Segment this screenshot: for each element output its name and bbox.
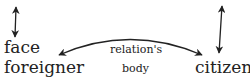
left-vertical-double-arrow xyxy=(15,7,16,37)
label-foreigner: foreigner xyxy=(4,59,84,76)
label-citizen: citizen xyxy=(195,59,250,76)
right-vertical-double-arrow xyxy=(219,6,222,53)
label-relation: relation's xyxy=(110,44,162,55)
label-face: face xyxy=(4,39,40,56)
label-body: body xyxy=(122,63,149,74)
